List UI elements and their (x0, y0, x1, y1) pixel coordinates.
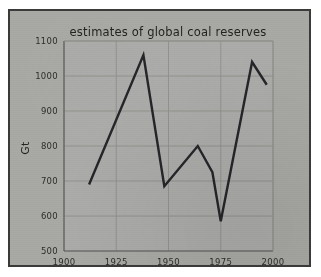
x-tick-label: 1900 (53, 257, 76, 267)
line-chart: estimates of global coal reserves Gt 500… (10, 11, 311, 267)
x-tick-label: 1950 (157, 257, 180, 267)
y-axis-title: Gt (19, 141, 32, 155)
y-tick-label: 800 (41, 141, 58, 151)
x-tick-label: 1975 (209, 257, 232, 267)
y-tick-label: 900 (41, 106, 58, 116)
x-tick-label: 2000 (262, 257, 285, 267)
y-tick-label: 500 (41, 246, 58, 256)
y-tick-label: 1000 (35, 71, 58, 81)
y-tick-label: 1100 (35, 36, 58, 46)
figure-canvas: estimates of global coal reserves Gt 500… (0, 0, 321, 277)
x-tick-label: 1925 (105, 257, 128, 267)
chart-card: estimates of global coal reserves Gt 500… (8, 9, 311, 267)
y-tick-label: 600 (41, 211, 58, 221)
chart-title: estimates of global coal reserves (70, 25, 267, 39)
y-tick-label: 700 (41, 176, 58, 186)
